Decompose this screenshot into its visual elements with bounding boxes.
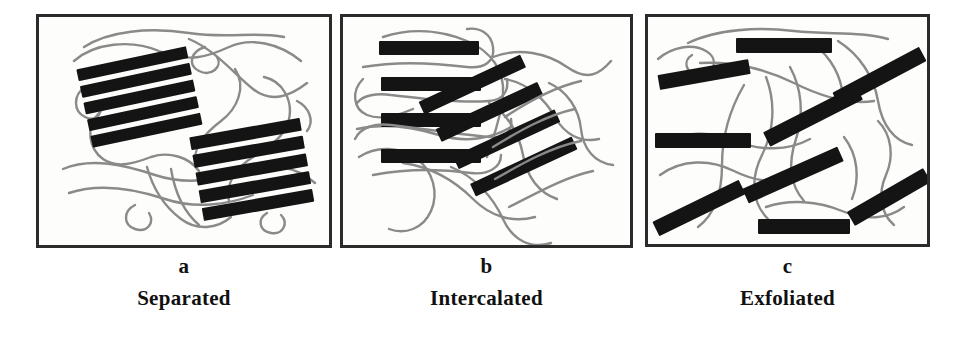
panel-c-exfoliated bbox=[645, 14, 930, 247]
panel-c-letter: c bbox=[645, 256, 930, 277]
panel-a-separated bbox=[36, 14, 332, 248]
panel-a-illustration bbox=[39, 17, 329, 245]
platelet bbox=[758, 219, 850, 234]
panel-c-illustration bbox=[648, 17, 927, 244]
panel-b-intercalated bbox=[340, 14, 633, 248]
panel-a-label: Separated bbox=[36, 288, 332, 309]
nanocomposite-morphology-figure: a Separated bbox=[0, 0, 960, 337]
panel-c-label: Exfoliated bbox=[645, 288, 930, 309]
panel-b-letter: b bbox=[340, 256, 633, 277]
platelet bbox=[652, 180, 745, 236]
platelet bbox=[655, 133, 751, 148]
panel-a-letter: a bbox=[36, 256, 332, 277]
panel-b-illustration bbox=[343, 17, 630, 245]
platelet bbox=[763, 85, 863, 146]
platelet bbox=[736, 38, 832, 53]
panel-a-clay-tactoid-1 bbox=[76, 46, 202, 148]
panel-b-label: Intercalated bbox=[340, 288, 633, 309]
